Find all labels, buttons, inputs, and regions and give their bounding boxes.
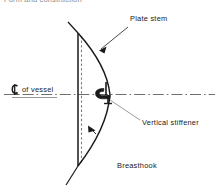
- label-vertical-stiffener: Vertical stiffener: [142, 118, 199, 127]
- stem-breasthook-drawing: [0, 0, 219, 195]
- figure-page: Form and construction: [0, 0, 219, 195]
- label-breasthook: Breasthook: [117, 161, 157, 170]
- section-direction-arrow: [88, 126, 96, 135]
- label-centerline-of-vessel: of vessel: [11, 84, 53, 95]
- plate-stem-leader-line: [101, 27, 128, 49]
- stem-upper-extension: [68, 22, 78, 33]
- stem-lower-extension: [66, 166, 78, 185]
- plate-stem-curve: [78, 33, 110, 166]
- label-plate-stem: Plate stem: [130, 14, 167, 23]
- centerline-label-text: of vessel: [22, 85, 53, 94]
- centerline-symbol-icon: [11, 84, 19, 95]
- vertical-stiffener-leader-line: [110, 100, 140, 120]
- section-arrow-head: [88, 126, 96, 133]
